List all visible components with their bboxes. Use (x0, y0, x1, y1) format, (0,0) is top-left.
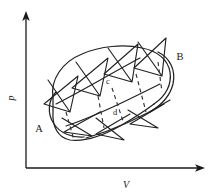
label-point-B: B (176, 51, 183, 62)
helix-hidden-segment-5 (158, 62, 162, 92)
pv-diagram-figure: A B c d p V (0, 0, 214, 195)
figure-canvas: A B c d p V (0, 0, 214, 195)
label-point-d: d (113, 107, 118, 117)
helix-solid-group (44, 38, 170, 140)
label-point-A: A (35, 123, 43, 134)
envelope-upper-arc (53, 46, 171, 104)
pressure-axis-label: p (5, 96, 16, 102)
helix-lower-stroke-3 (128, 104, 164, 128)
label-point-c: c (106, 76, 110, 86)
helix-lower-stroke-2 (96, 114, 130, 140)
labels-group: A B c d p V (5, 51, 184, 190)
volume-axis-label: V (123, 179, 131, 190)
